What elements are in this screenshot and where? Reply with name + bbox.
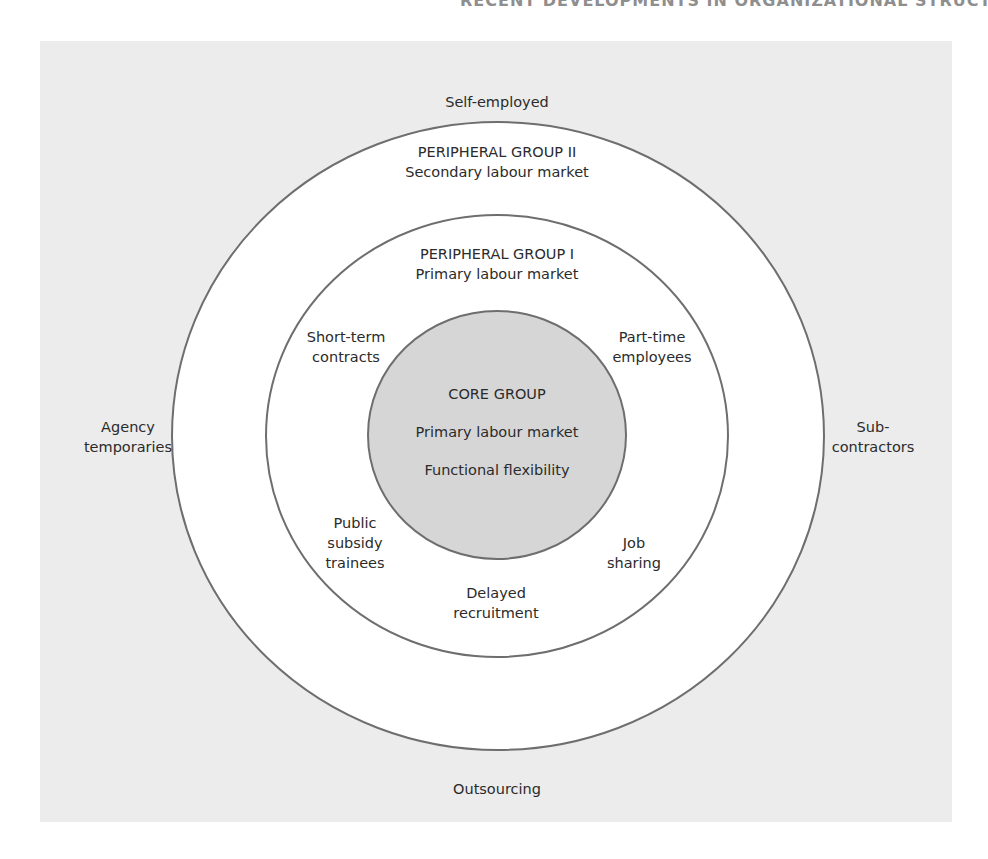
label-outsourcing: Outsourcing — [453, 779, 541, 799]
label-self-employed: Self-employed — [445, 92, 549, 112]
label-subcontractors: Sub- contractors — [832, 417, 915, 457]
core-group-label: CORE GROUP Primary labour market Functio… — [416, 384, 579, 498]
label-part-time-employees: Part-time employees — [612, 327, 691, 367]
label-short-term-contracts: Short-term contracts — [307, 327, 386, 367]
label-job-sharing: Job sharing — [607, 533, 661, 573]
middle-ring-title: PERIPHERAL GROUP I Primary labour market — [416, 244, 579, 284]
outer-ring-title: PERIPHERAL GROUP II Secondary labour mar… — [405, 142, 589, 182]
label-public-subsidy-trainees: Public subsidy trainees — [325, 513, 384, 573]
label-agency-temporaries: Agency temporaries — [84, 417, 172, 457]
label-delayed-recruitment: Delayed recruitment — [453, 583, 538, 623]
